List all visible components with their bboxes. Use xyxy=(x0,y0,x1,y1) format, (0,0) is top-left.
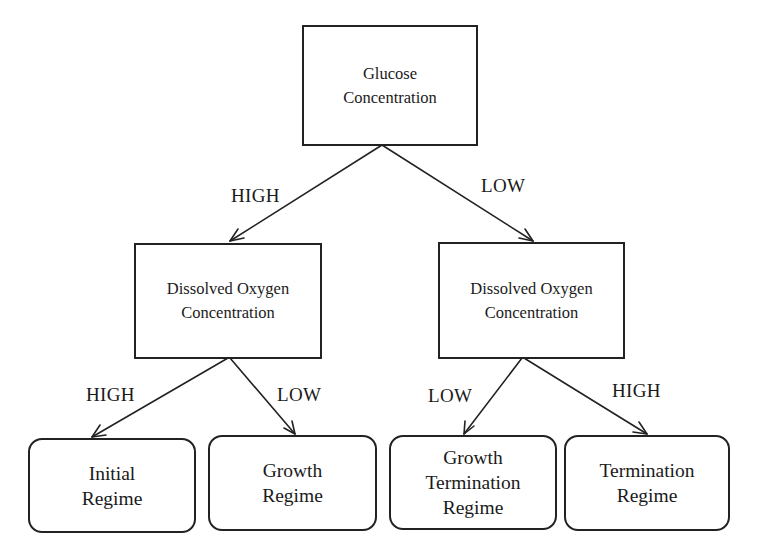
node-label-line: Regime xyxy=(443,495,504,520)
edge-label-oxygen-left-high: HIGH xyxy=(86,385,135,405)
node-label-line: Growth xyxy=(443,445,503,470)
node-label-line: Concentration xyxy=(343,86,436,110)
node-termination-regime: Termination Regime xyxy=(564,435,730,531)
node-label-line: Regime xyxy=(617,483,678,508)
node-growth-termination-regime: Growth Termination Regime xyxy=(389,435,557,530)
node-label-line: Termination xyxy=(599,458,694,483)
node-dissolved-oxygen-right: Dissolved Oxygen Concentration xyxy=(438,242,625,359)
node-growth-regime: Growth Regime xyxy=(208,435,377,531)
node-label-line: Termination xyxy=(425,470,520,495)
node-glucose-concentration: Glucose Concentration xyxy=(302,25,478,146)
node-label-line: Concentration xyxy=(181,301,274,325)
edge-label-oxygen-right-low: LOW xyxy=(428,386,472,406)
node-label-line: Initial xyxy=(89,461,136,486)
arrow-oxygen-right-to-growth-termination-regime xyxy=(464,358,522,434)
edge-label-root-low: LOW xyxy=(481,176,525,196)
node-initial-regime: Initial Regime xyxy=(28,438,196,533)
decision-tree-diagram: Glucose Concentration Dissolved Oxygen C… xyxy=(0,0,761,554)
edge-label-oxygen-right-high: HIGH xyxy=(612,381,661,401)
node-label-line: Glucose xyxy=(363,62,417,86)
edge-label-root-high: HIGH xyxy=(231,186,280,206)
node-label-line: Concentration xyxy=(485,301,578,325)
node-label-line: Regime xyxy=(82,486,143,511)
node-dissolved-oxygen-left: Dissolved Oxygen Concentration xyxy=(134,243,322,359)
node-label-line: Dissolved Oxygen xyxy=(470,277,592,301)
node-label-line: Regime xyxy=(262,483,323,508)
node-label-line: Growth xyxy=(263,458,323,483)
node-label-line: Dissolved Oxygen xyxy=(167,277,289,301)
edge-label-oxygen-left-low: LOW xyxy=(277,385,321,405)
